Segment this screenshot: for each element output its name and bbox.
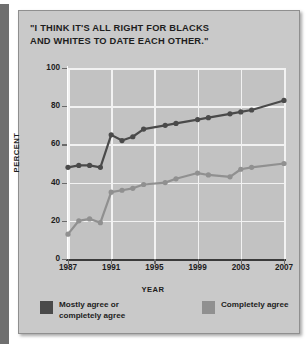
data-point bbox=[238, 167, 243, 172]
data-point bbox=[98, 165, 103, 170]
data-point bbox=[109, 190, 114, 195]
data-point bbox=[163, 123, 168, 128]
data-point bbox=[173, 176, 178, 181]
x-axis-tick bbox=[284, 259, 285, 264]
data-point bbox=[130, 134, 135, 139]
data-point bbox=[206, 115, 211, 120]
legend-label: Mostly agree or completely agree bbox=[59, 300, 125, 321]
data-point bbox=[227, 111, 232, 116]
x-axis-tick-label: 1999 bbox=[181, 263, 215, 272]
legend-label: Completely agree bbox=[221, 300, 288, 311]
data-point bbox=[281, 98, 286, 103]
y-axis-tick-label: 40 bbox=[30, 178, 60, 187]
y-axis-tick bbox=[62, 144, 67, 145]
x-axis-tick-label: 2003 bbox=[224, 263, 258, 272]
legend-item[interactable]: Mostly agree or completely agree bbox=[40, 300, 125, 321]
x-axis-tick-label: 2007 bbox=[267, 263, 301, 272]
data-point bbox=[195, 170, 200, 175]
data-point bbox=[173, 121, 178, 126]
data-point bbox=[76, 218, 81, 223]
legend-swatch-icon bbox=[202, 301, 215, 314]
plot-area-wrapper: "I THINK IT'S ALL RIGHT FOR BLACKS AND W… bbox=[0, 0, 306, 344]
x-axis-tick bbox=[111, 259, 112, 264]
x-axis-tick bbox=[241, 259, 242, 264]
y-axis-tick bbox=[62, 183, 67, 184]
data-point bbox=[163, 180, 168, 185]
y-axis-tick-label: 0 bbox=[30, 254, 60, 263]
legend-swatch-icon bbox=[40, 301, 53, 314]
data-point bbox=[87, 163, 92, 168]
data-point bbox=[249, 107, 254, 112]
x-axis-tick-label: 1995 bbox=[137, 263, 171, 272]
data-point bbox=[76, 163, 81, 168]
data-point bbox=[195, 117, 200, 122]
data-point bbox=[141, 127, 146, 132]
data-point bbox=[87, 216, 92, 221]
y-axis-tick-label: 20 bbox=[30, 216, 60, 225]
data-point bbox=[98, 220, 103, 225]
x-axis-tick-label: 1991 bbox=[94, 263, 128, 272]
data-series-svg bbox=[0, 0, 306, 344]
y-axis-tick bbox=[62, 68, 67, 69]
x-axis-tick-label: 1987 bbox=[51, 263, 85, 272]
x-axis-tick bbox=[154, 259, 155, 264]
data-point bbox=[119, 138, 124, 143]
data-point bbox=[281, 161, 286, 166]
data-point bbox=[65, 165, 70, 170]
data-point bbox=[119, 188, 124, 193]
data-point bbox=[130, 186, 135, 191]
y-axis-tick-label: 100 bbox=[30, 63, 60, 72]
x-axis-tick bbox=[198, 259, 199, 264]
data-point bbox=[65, 232, 70, 237]
data-point bbox=[249, 165, 254, 170]
y-axis-tick-label: 60 bbox=[30, 139, 60, 148]
y-axis-tick bbox=[62, 106, 67, 107]
y-axis-tick bbox=[62, 259, 67, 260]
chart-legend: Mostly agree or completely agreeComplete… bbox=[26, 300, 292, 328]
x-axis-tick bbox=[68, 259, 69, 264]
data-point bbox=[109, 132, 114, 137]
y-axis-tick bbox=[62, 221, 67, 222]
data-point bbox=[141, 182, 146, 187]
data-point bbox=[227, 174, 232, 179]
data-point bbox=[238, 109, 243, 114]
data-point bbox=[206, 172, 211, 177]
y-axis-tick-label: 80 bbox=[30, 101, 60, 110]
legend-item[interactable]: Completely agree bbox=[202, 300, 288, 314]
